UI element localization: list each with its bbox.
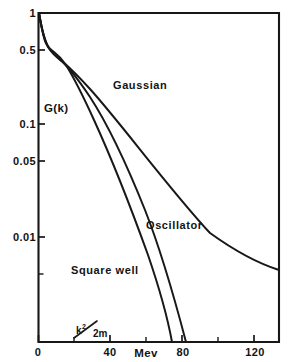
curve-gaussian	[39, 13, 279, 270]
y-tick-label-1: 1	[29, 7, 36, 19]
y-axis-tick-labels: 1 0.5 0.1 0.05 0.01	[13, 7, 36, 243]
annotation-denominator: 2m	[93, 328, 108, 339]
y-tick-label-0p1: 0.1	[20, 118, 37, 130]
frame-rect	[39, 13, 280, 342]
kinetic-energy-annotation: k 2 2m	[74, 321, 108, 339]
y-tick-label-0p5: 0.5	[20, 44, 37, 56]
x-tick-label-0: 0	[35, 346, 42, 358]
x-tick-label-80: 80	[176, 346, 189, 358]
plot-frame	[39, 13, 280, 342]
curve-square-well	[39, 13, 172, 342]
curve-label-gaussian: Gaussian	[113, 79, 167, 91]
semilog-plot: 1 0.5 0.1 0.05 0.01 G(k) 0 40 80 120 Mev	[0, 0, 291, 362]
x-tick-label-40: 40	[103, 346, 116, 358]
y-tick-label-0p01: 0.01	[13, 231, 36, 243]
curve-label-square-well: Square well	[71, 264, 139, 276]
x-axis-label: Mev	[134, 347, 158, 359]
curve-label-oscillator: Oscillator	[146, 219, 203, 231]
y-axis-label: G(k)	[44, 102, 69, 114]
x-tick-label-120: 120	[245, 346, 265, 358]
curve-labels: Gaussian Oscillator Square well	[71, 79, 203, 276]
data-curves	[39, 13, 279, 342]
y-tick-label-0p05: 0.05	[13, 155, 36, 167]
figure-container: 1 0.5 0.1 0.05 0.01 G(k) 0 40 80 120 Mev	[0, 0, 291, 362]
